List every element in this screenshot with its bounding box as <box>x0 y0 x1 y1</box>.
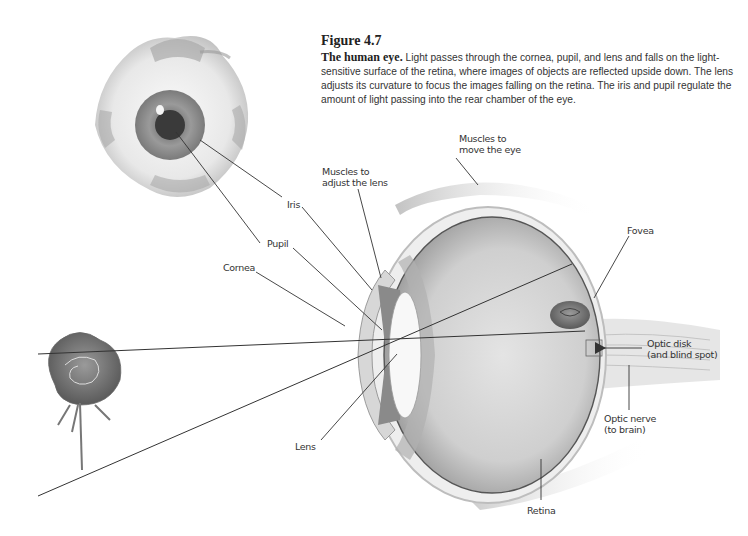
label-iris: Iris <box>287 199 300 210</box>
label-lens: Lens <box>295 441 316 452</box>
label-line: Muscles to <box>322 166 388 177</box>
inverted-rose-image <box>550 301 590 329</box>
label-line: move the eye <box>459 144 521 155</box>
lens-shape <box>389 292 421 418</box>
label-muscles-adjust-lens: Muscles to adjust the lens <box>322 166 388 188</box>
label-retina: Retina <box>527 505 555 516</box>
label-line: Muscles to <box>459 133 521 144</box>
label-cornea: Cornea <box>223 262 255 273</box>
label-muscles-move-eye: Muscles to move the eye <box>459 133 521 155</box>
label-line: adjust the lens <box>322 177 388 188</box>
label-line: Optic nerve <box>604 413 656 424</box>
label-optic-disk: Optic disk (and blind spot) <box>647 338 717 360</box>
label-optic-nerve: Optic nerve (to brain) <box>604 413 656 435</box>
label-line: Optic disk <box>647 338 717 349</box>
label-pupil: Pupil <box>267 238 288 249</box>
front-eye-illustration <box>95 36 248 197</box>
label-fovea: Fovea <box>627 225 654 236</box>
label-line: (and blind spot) <box>647 349 717 360</box>
eye-diagram <box>0 0 748 536</box>
label-line: (to brain) <box>604 424 656 435</box>
